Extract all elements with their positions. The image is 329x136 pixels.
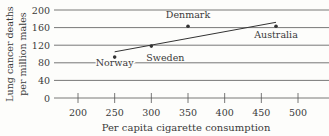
- x-tick-label: 500: [289, 107, 307, 118]
- y-axis-label-line1: Lung cancer deaths: [4, 6, 15, 102]
- y-axis-label-line2: per million males: [17, 12, 28, 96]
- point-label: Australia: [253, 29, 298, 40]
- data-point: [274, 24, 278, 28]
- x-tick-label: 450: [252, 107, 270, 118]
- x-tick-label: 250: [106, 107, 124, 118]
- y-tick-label: 80: [38, 57, 50, 68]
- y-tick-label: 160: [32, 22, 50, 33]
- x-tick-label: 350: [179, 107, 197, 118]
- point-label: Denmark: [166, 9, 211, 20]
- x-tick-label: 200: [69, 107, 87, 118]
- scatter-chart: 04080120160200200250300350400450500Per c…: [0, 0, 329, 136]
- y-tick-label: 120: [32, 40, 50, 51]
- x-tick-label: 300: [142, 107, 160, 118]
- x-tick-label: 400: [216, 107, 234, 118]
- x-axis-label: Per capita cigarette consumption: [102, 122, 271, 133]
- trend-line: [115, 22, 276, 51]
- point-label: Sweden: [146, 52, 184, 63]
- y-tick-label: 40: [38, 75, 50, 86]
- y-tick-label: 0: [44, 93, 50, 104]
- data-point: [150, 44, 154, 48]
- point-label: Norway: [96, 57, 134, 68]
- data-point: [186, 24, 190, 28]
- y-tick-label: 200: [32, 5, 50, 16]
